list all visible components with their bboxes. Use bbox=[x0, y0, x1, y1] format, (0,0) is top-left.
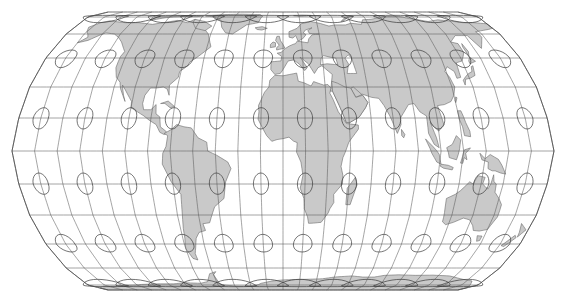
landmass-australia bbox=[442, 175, 501, 231]
graticule-layer bbox=[12, 12, 554, 290]
tissot-circle bbox=[55, 50, 77, 68]
landmass-sri-lanka bbox=[401, 129, 404, 137]
tissot-circle bbox=[489, 50, 511, 68]
landmass-ireland bbox=[270, 42, 275, 48]
landmass-new-zealand-n bbox=[517, 224, 526, 238]
tissot-circle bbox=[135, 234, 155, 252]
tissot-circle bbox=[450, 234, 471, 252]
tissot-circle bbox=[55, 234, 77, 252]
landmass-antarctica bbox=[100, 272, 472, 290]
landmass-cuba bbox=[161, 101, 175, 108]
tissot-circle bbox=[95, 234, 116, 252]
landmass-sulawesi bbox=[461, 148, 471, 163]
landmass-tasmania bbox=[477, 236, 482, 242]
map-canvas bbox=[0, 0, 563, 301]
landmass-philippines bbox=[457, 111, 470, 137]
tissot-circle bbox=[411, 234, 431, 252]
world-map bbox=[0, 0, 563, 301]
tissot-circle bbox=[372, 234, 391, 252]
landmass-java bbox=[440, 164, 453, 170]
tissot-circle bbox=[95, 50, 116, 68]
landmass-great-britain bbox=[276, 36, 285, 50]
landmass-south-america bbox=[162, 125, 231, 260]
landmass-new-guinea bbox=[480, 153, 506, 174]
landmass-borneo bbox=[447, 136, 461, 160]
landmass-layer bbox=[77, 14, 526, 290]
